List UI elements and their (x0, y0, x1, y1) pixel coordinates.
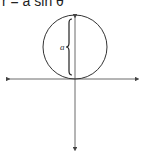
radius-label: a (60, 42, 65, 52)
polar-diagram: a (0, 0, 145, 160)
curly-brace (66, 19, 72, 75)
